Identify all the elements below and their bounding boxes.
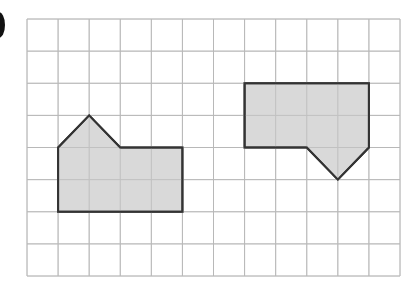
grid-overlay [27, 19, 400, 276]
grid-figure [0, 0, 413, 294]
shapes-layer [27, 19, 400, 276]
